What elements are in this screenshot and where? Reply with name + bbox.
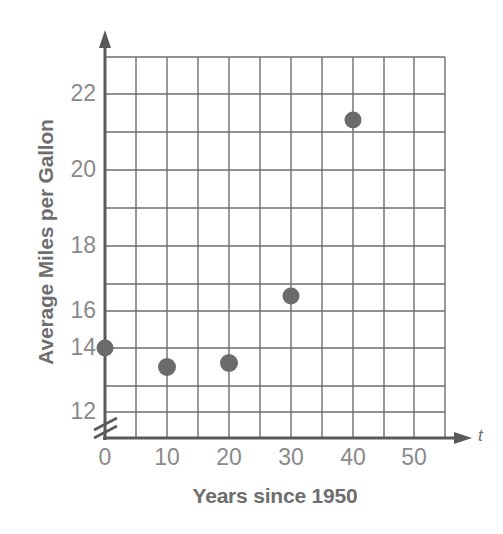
x-tick-label: 10 xyxy=(139,446,195,469)
x-axis-variable-label: t xyxy=(478,427,483,444)
x-tick-label: 30 xyxy=(263,446,319,469)
x-tick-label: 50 xyxy=(386,446,442,469)
y-tick-label: 20 xyxy=(52,158,96,181)
y-tick-label: 16 xyxy=(52,299,96,322)
x-axis-title: Years since 1950 xyxy=(105,484,445,508)
grid-lines xyxy=(105,57,445,438)
y-tick-label: 18 xyxy=(52,234,96,257)
x-tick-label: 40 xyxy=(325,446,381,469)
data-point xyxy=(97,340,114,357)
y-axis-title: Average Miles per Gallon xyxy=(34,57,58,427)
x-axis xyxy=(103,432,472,444)
x-tick-label: 20 xyxy=(201,446,257,469)
data-point xyxy=(220,354,238,372)
x-tick-label: 0 xyxy=(77,446,133,469)
y-tick-label: 22 xyxy=(52,82,96,105)
data-point xyxy=(283,288,300,305)
data-point xyxy=(345,112,362,129)
scatter-plot-figure: 22 20 18 16 14 12 0 10 20 30 40 50 Avera… xyxy=(0,0,503,534)
y-tick-label: 14 xyxy=(52,336,96,359)
y-tick-label: 12 xyxy=(52,400,96,423)
data-point xyxy=(158,358,176,376)
y-axis xyxy=(99,30,111,440)
